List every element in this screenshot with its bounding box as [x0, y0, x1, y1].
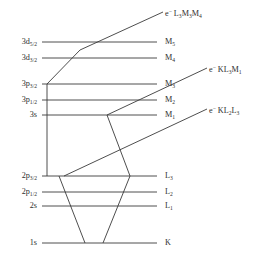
auger-kl3m1-line — [107, 68, 207, 115]
level-label-right-3p32: M3 — [165, 80, 175, 88]
level-label-right-3s: M1 — [165, 111, 175, 119]
level-label-left-2s: 2s — [0, 202, 37, 210]
level-label-left-3p32: 3p3/2 — [0, 80, 37, 88]
k-to-l3-left-line — [59, 176, 85, 243]
k-to-l3-right-line — [103, 176, 130, 243]
level-label-right-1s: K — [165, 239, 171, 247]
level-label-right-3d52: M5 — [165, 38, 175, 46]
diagram-canvas — [0, 0, 274, 262]
level-label-left-2p12: 2p1/2 — [0, 188, 37, 196]
auger-kl2l3-line — [64, 109, 207, 176]
energy-level-lines — [42, 42, 157, 243]
level-label-left-3p12: 3p1/2 — [0, 96, 37, 104]
level-label-right-2s: L1 — [165, 202, 173, 210]
auger-level-diagram: 3d5/23d3/23p3/23p1/23s2p3/22p1/22s1s M5M… — [0, 0, 274, 262]
level-label-left-2p32: 2p3/2 — [0, 172, 37, 180]
level-label-left-3s: 3s — [0, 111, 37, 119]
annotation-auger-kl3m1: e− KL3M1 — [209, 66, 242, 74]
level-label-right-3d32: M4 — [165, 54, 175, 62]
annotation-auger-kl2l3: e− KL2L3 — [209, 107, 239, 115]
level-label-left-3d32: 3d3/2 — [0, 54, 37, 62]
level-label-left-1s: 1s — [0, 239, 37, 247]
level-label-right-2p32: L3 — [165, 172, 173, 180]
level-label-right-2p12: L2 — [165, 188, 173, 196]
transition-lines — [47, 12, 207, 243]
level-label-left-3d52: 3d5/2 — [0, 38, 37, 46]
level-label-right-3p12: M2 — [165, 96, 175, 104]
auger-l3m3m4-line — [47, 12, 163, 84]
m1-to-l3-line — [107, 115, 130, 176]
annotation-auger-l3m3m4: e− L3M3M4 — [165, 10, 202, 18]
